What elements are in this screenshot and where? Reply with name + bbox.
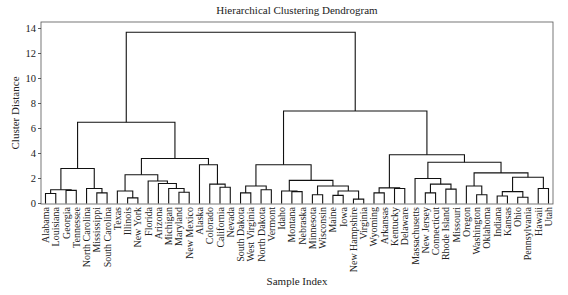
dendrogram-link xyxy=(66,190,76,203)
y-tick-label: 6 xyxy=(31,123,36,134)
y-tick-label: 8 xyxy=(31,98,36,109)
y-tick-label: 14 xyxy=(26,23,37,34)
y-axis: 02468101214 xyxy=(26,23,42,209)
leaf-label: Utah xyxy=(543,207,554,226)
dendrogram-link xyxy=(169,189,184,204)
dendrogram-link xyxy=(125,175,158,191)
dendrogram-link xyxy=(220,187,230,203)
dendrogram-link xyxy=(46,194,56,204)
chart-title: Hierarchical Clustering Dendrogram xyxy=(216,4,378,16)
dendrogram-link xyxy=(518,197,528,203)
dendrogram-link xyxy=(428,162,501,178)
y-tick-label: 2 xyxy=(31,173,36,184)
dendrogram-link xyxy=(256,165,311,186)
plot-frame xyxy=(41,22,553,204)
dendrogram-link xyxy=(179,192,189,203)
dendrogram-link xyxy=(78,122,175,168)
dendrogram-link xyxy=(374,193,384,204)
dendrogram-link xyxy=(415,179,441,204)
dendrogram-link xyxy=(425,193,435,204)
dendrogram-links xyxy=(46,32,549,203)
dendrogram-link xyxy=(141,159,208,175)
dendrogram-link xyxy=(474,173,528,186)
dendrogram-link xyxy=(446,189,456,203)
dendrogram-link xyxy=(282,191,297,204)
dendrogram-link xyxy=(261,190,271,204)
dendrogram-link xyxy=(158,184,176,204)
dendrogram-link xyxy=(292,192,302,204)
x-axis-label: Sample Index xyxy=(267,275,328,287)
y-tick-label: 12 xyxy=(26,48,37,59)
dendrogram-link xyxy=(97,193,107,204)
dendrogram-link xyxy=(126,32,355,122)
dendrogram-chart: Hierarchical Clustering Dendrogram 02468… xyxy=(0,0,568,295)
dendrogram-link xyxy=(148,181,167,204)
dendrogram-link xyxy=(497,196,507,204)
y-tick-label: 0 xyxy=(31,198,36,209)
dendrogram-link xyxy=(430,184,451,193)
y-axis-label: Cluster Distance xyxy=(9,76,21,149)
dendrogram-link xyxy=(284,111,427,165)
dendrogram-link xyxy=(395,189,405,204)
leaf-labels: AlabamaLouisianaGeorgiaTennesseeNorth Ca… xyxy=(40,206,554,272)
dendrogram-link xyxy=(312,195,322,204)
dendrogram-link xyxy=(117,191,132,204)
dendrogram-link xyxy=(241,193,251,204)
dendrogram-link xyxy=(333,195,343,203)
dendrogram-link xyxy=(353,199,363,203)
dendrogram-link xyxy=(538,189,548,204)
dendrogram-link xyxy=(128,198,138,204)
dendrogram-link xyxy=(477,195,487,204)
dendrogram-link xyxy=(87,189,102,204)
y-tick-label: 4 xyxy=(31,148,37,159)
dendrogram-link xyxy=(318,186,349,195)
dendrogram-link xyxy=(389,155,464,188)
dendrogram-link xyxy=(61,169,94,190)
y-tick-label: 10 xyxy=(26,73,37,84)
